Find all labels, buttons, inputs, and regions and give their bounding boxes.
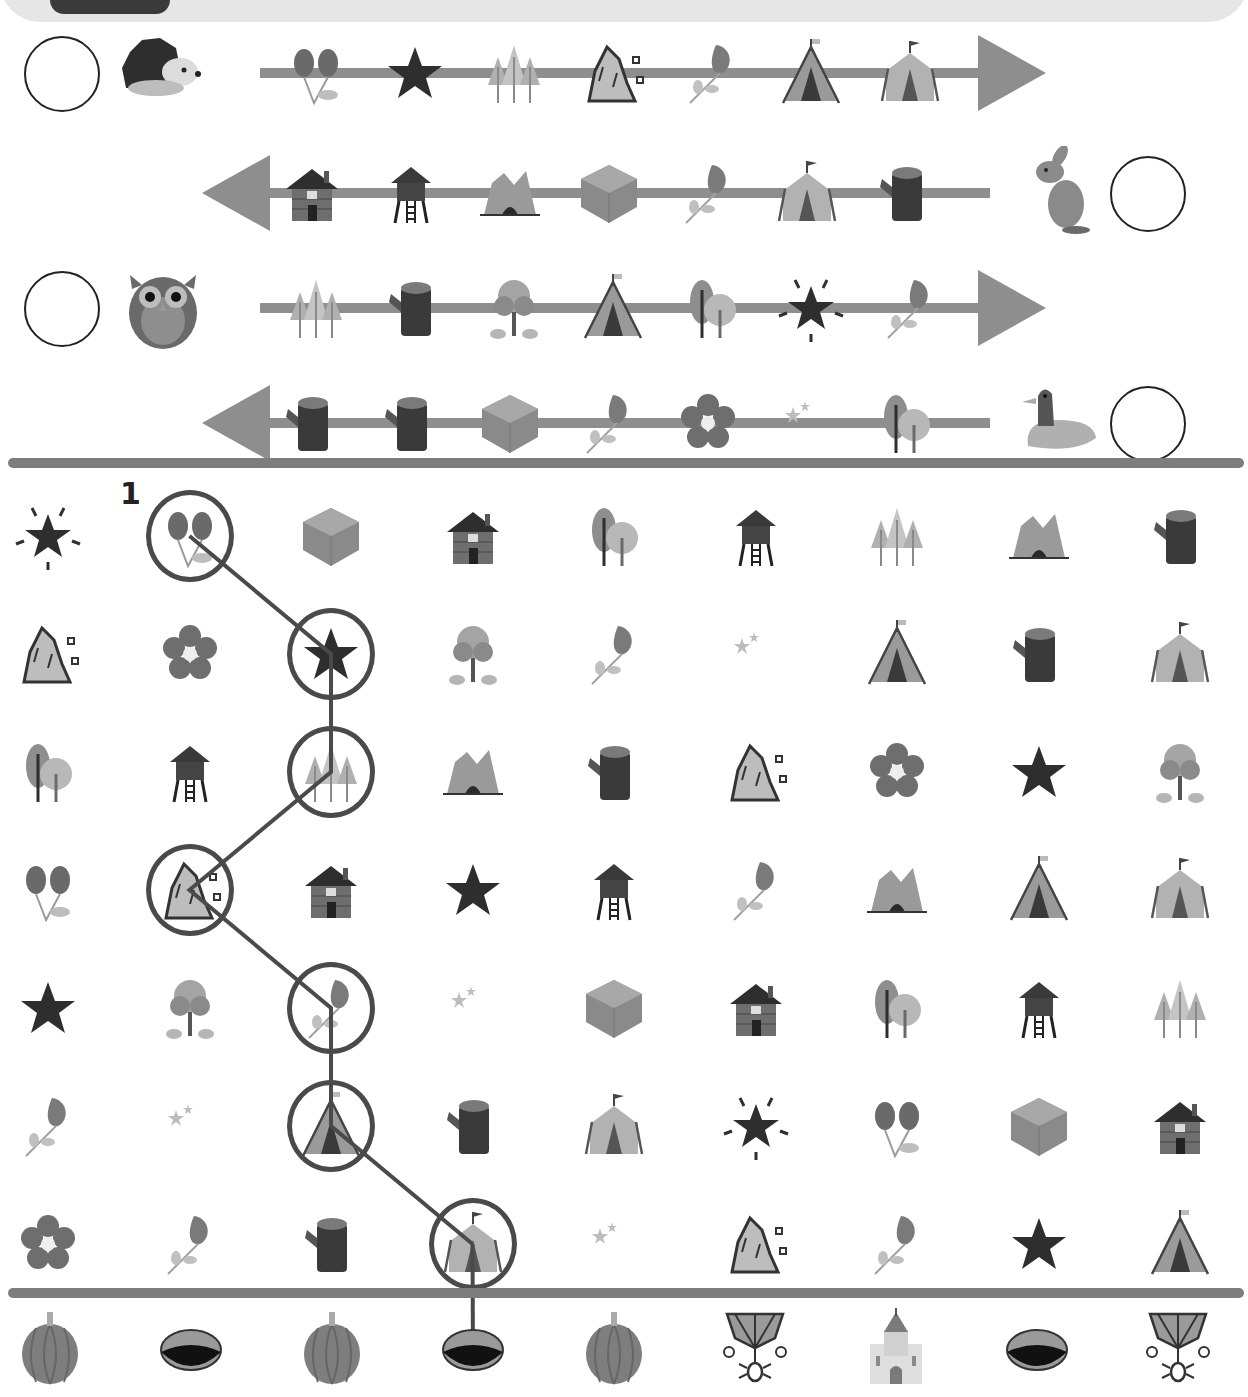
grid-cell-stump[interactable] bbox=[1003, 618, 1075, 690]
grid-cell-bush-tree[interactable] bbox=[437, 618, 509, 690]
grid-cell-bush-tree[interactable] bbox=[1144, 736, 1216, 808]
grid-cell-sparkle-star[interactable] bbox=[720, 1090, 792, 1162]
grid-cell-stilt-house[interactable] bbox=[1003, 972, 1075, 1044]
cave-icon bbox=[474, 157, 546, 229]
grid-cell-rosehip[interactable] bbox=[12, 854, 84, 926]
goal-hole-icon[interactable] bbox=[433, 1308, 513, 1388]
grid-cell-star[interactable] bbox=[1003, 736, 1075, 808]
grid-cell-flower[interactable] bbox=[861, 736, 933, 808]
grid-cell-rock[interactable] bbox=[720, 1208, 792, 1280]
goal-pumpkin-icon[interactable] bbox=[574, 1308, 654, 1388]
tent-icon bbox=[771, 157, 843, 229]
pine-trees-icon bbox=[478, 37, 550, 109]
path-ring bbox=[146, 490, 234, 582]
grid-cell-rose[interactable] bbox=[154, 1208, 226, 1280]
grid-cell-dirt-block[interactable] bbox=[1003, 1090, 1075, 1162]
grid-cell-cave[interactable] bbox=[861, 854, 933, 926]
pine-trees-icon bbox=[280, 272, 352, 344]
grid-cell-stump[interactable] bbox=[295, 1208, 367, 1280]
grid-cell-moon[interactable] bbox=[578, 1208, 650, 1280]
sequence-number bbox=[1110, 156, 1186, 232]
goal-pumpkin-icon[interactable] bbox=[10, 1308, 90, 1388]
teepee-icon bbox=[577, 272, 649, 344]
grid-cell-stump[interactable] bbox=[578, 736, 650, 808]
grid-cell-flower[interactable] bbox=[154, 618, 226, 690]
grid-cell-pine-trees[interactable] bbox=[861, 500, 933, 572]
grid-cell-star[interactable] bbox=[12, 972, 84, 1044]
star-icon bbox=[379, 37, 451, 109]
grid-cell-dirt-block[interactable] bbox=[295, 500, 367, 572]
goal-spider-web-icon[interactable] bbox=[1138, 1308, 1218, 1388]
top-divider bbox=[8, 458, 1244, 468]
grid-cell-teepee[interactable] bbox=[861, 618, 933, 690]
grid-cell-moon[interactable] bbox=[437, 972, 509, 1044]
sequence-row-1 bbox=[0, 20, 1248, 130]
grid-cell-tent[interactable] bbox=[1144, 618, 1216, 690]
sequence-row-2 bbox=[0, 140, 1248, 250]
rosehip-icon bbox=[280, 37, 352, 109]
goal-pumpkin-icon[interactable] bbox=[292, 1308, 372, 1388]
grid-cell-tent[interactable] bbox=[578, 1090, 650, 1162]
grid-cell-dirt-block[interactable] bbox=[578, 972, 650, 1044]
stump-icon bbox=[379, 272, 451, 344]
grid-cell-rose[interactable] bbox=[720, 854, 792, 926]
grid-cell-round-trees[interactable] bbox=[12, 736, 84, 808]
grid-cell-rock[interactable] bbox=[720, 736, 792, 808]
grid-cell-rose[interactable] bbox=[12, 1090, 84, 1162]
grid-cell-log-cabin[interactable] bbox=[295, 854, 367, 926]
grid-cell-star[interactable] bbox=[437, 854, 509, 926]
grid-cell-moon[interactable] bbox=[154, 1090, 226, 1162]
grid-cell-log-cabin[interactable] bbox=[437, 500, 509, 572]
sparkle-star-icon bbox=[775, 272, 847, 344]
grid-cell-moon[interactable] bbox=[720, 618, 792, 690]
grid-cell-log-cabin[interactable] bbox=[720, 972, 792, 1044]
goal-hole-icon[interactable] bbox=[151, 1308, 231, 1388]
grid-cell-sparkle-star[interactable] bbox=[12, 500, 84, 572]
grid-cell-stump[interactable] bbox=[437, 1090, 509, 1162]
grid-cell-tent[interactable] bbox=[1144, 854, 1216, 926]
grid-cell-stilt-house[interactable] bbox=[720, 500, 792, 572]
dirt-block-icon bbox=[573, 157, 645, 229]
bush-tree-icon bbox=[478, 272, 550, 344]
rose-icon bbox=[874, 272, 946, 344]
grid-cell-star[interactable] bbox=[1003, 1208, 1075, 1280]
stump-icon bbox=[870, 157, 942, 229]
grid-cell-bush-tree[interactable] bbox=[154, 972, 226, 1044]
grid-cell-rock[interactable] bbox=[12, 618, 84, 690]
grid-cell-cave[interactable] bbox=[1003, 500, 1075, 572]
grid-cell-log-cabin[interactable] bbox=[1144, 1090, 1216, 1162]
header-bar bbox=[0, 0, 1248, 22]
grid-cell-pine-trees[interactable] bbox=[1144, 972, 1216, 1044]
rose-icon bbox=[676, 37, 748, 109]
log-cabin-icon bbox=[276, 157, 348, 229]
grid-cell-cave[interactable] bbox=[437, 736, 509, 808]
grid-cell-stump[interactable] bbox=[1144, 500, 1216, 572]
grid-cell-round-trees[interactable] bbox=[861, 972, 933, 1044]
grid-cell-teepee[interactable] bbox=[1144, 1208, 1216, 1280]
path-ring bbox=[287, 1080, 375, 1172]
stump-icon bbox=[276, 387, 348, 459]
stump-icon bbox=[375, 387, 447, 459]
grid-cell-stilt-house[interactable] bbox=[154, 736, 226, 808]
sequence-number bbox=[24, 36, 100, 112]
teepee-icon bbox=[775, 37, 847, 109]
duck-icon bbox=[1014, 376, 1104, 466]
grid-cell-rose[interactable] bbox=[861, 1208, 933, 1280]
grid-cell-flower[interactable] bbox=[12, 1208, 84, 1280]
path-ring bbox=[429, 1198, 517, 1290]
rock-icon bbox=[577, 37, 649, 109]
header-tab bbox=[50, 0, 170, 14]
goal-castle-icon[interactable] bbox=[856, 1308, 936, 1388]
grid-cell-teepee[interactable] bbox=[1003, 854, 1075, 926]
path-ring bbox=[287, 726, 375, 818]
grid-cell-round-trees[interactable] bbox=[578, 500, 650, 572]
grid-cell-rose[interactable] bbox=[578, 618, 650, 690]
stilt-house-icon bbox=[375, 157, 447, 229]
path-start-label: 1 bbox=[120, 476, 141, 511]
grid-cell-stilt-house[interactable] bbox=[578, 854, 650, 926]
path-ring bbox=[287, 962, 375, 1054]
rabbit-icon bbox=[1014, 146, 1104, 236]
goal-spider-web-icon[interactable] bbox=[715, 1308, 795, 1388]
grid-cell-rosehip[interactable] bbox=[861, 1090, 933, 1162]
goal-hole-icon[interactable] bbox=[997, 1308, 1077, 1388]
